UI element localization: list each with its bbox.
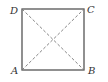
vertex-label-a: A [10, 65, 18, 76]
vertex-label-c: C [87, 4, 95, 15]
square-diagram: D C A B [0, 0, 108, 82]
vertex-label-d: D [9, 5, 18, 16]
vertex-label-b: B [87, 65, 95, 76]
